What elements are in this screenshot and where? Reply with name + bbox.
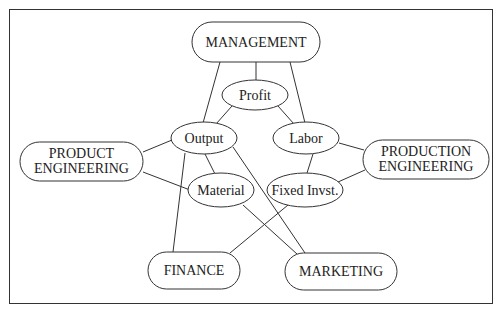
node-output-label: Output	[185, 131, 224, 146]
edge-management-output	[203, 62, 220, 123]
organization-factor-diagram: MANAGEMENT PRODUCT ENGINEERING PRODUCTIO…	[0, 0, 503, 316]
edge-labor-production-engineering	[339, 143, 364, 150]
node-product-engineering-label-line2: ENGINEERING	[34, 161, 129, 176]
node-marketing-label: MARKETING	[299, 264, 383, 279]
node-product-engineering[interactable]: PRODUCT ENGINEERING	[20, 142, 143, 181]
edge-profit-output	[216, 106, 232, 124]
edge-management-labor	[290, 62, 305, 123]
node-finance-label: FINANCE	[164, 263, 225, 278]
node-finance[interactable]: FINANCE	[148, 252, 240, 289]
node-management[interactable]: MANAGEMENT	[192, 22, 320, 62]
node-fixed-invst[interactable]: Fixed Invst.	[267, 173, 343, 207]
edge-product-engineering-output	[143, 140, 172, 152]
edge-fixed-invst-production-engineering	[338, 170, 365, 182]
node-production-engineering-label-line2: ENGINEERING	[379, 159, 474, 174]
node-production-engineering-label-line1: PRODUCTION	[381, 144, 471, 159]
node-profit-label: Profit	[239, 88, 271, 103]
edge-fixed-invst-finance	[230, 205, 288, 253]
edge-output-material	[205, 154, 215, 174]
node-product-engineering-label-line1: PRODUCT	[49, 146, 115, 161]
node-management-label: MANAGEMENT	[205, 35, 307, 50]
node-fixed-invst-label: Fixed Invst.	[272, 183, 339, 198]
node-output[interactable]: Output	[171, 122, 237, 154]
edge-product-engineering-material	[143, 172, 190, 190]
node-profit[interactable]: Profit	[222, 80, 288, 110]
node-labor-label: Labor	[289, 131, 323, 146]
node-material-label: Material	[197, 183, 245, 198]
node-material[interactable]: Material	[188, 173, 254, 207]
edge-profit-labor	[278, 106, 294, 124]
node-marketing[interactable]: MARKETING	[285, 253, 397, 290]
edge-labor-fixed-invst	[307, 154, 313, 173]
edge-output-finance	[173, 153, 185, 252]
node-labor[interactable]: Labor	[273, 122, 339, 154]
node-production-engineering[interactable]: PRODUCTION ENGINEERING	[363, 140, 489, 179]
